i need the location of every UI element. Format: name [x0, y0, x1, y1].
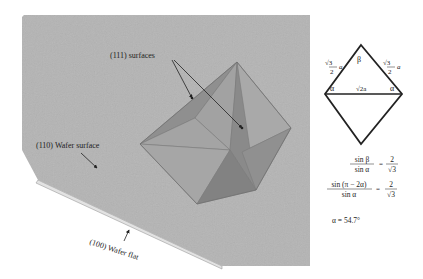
eq1-rhs-num: 2: [390, 155, 394, 164]
svg-text:a: a: [339, 63, 343, 71]
arrow-100: [124, 230, 129, 241]
result-alpha: α = 54.7°: [332, 216, 360, 225]
eq1-rhs-den: √3: [388, 165, 396, 174]
svg-text:√3: √3: [383, 59, 391, 67]
svg-text:a: a: [397, 63, 401, 71]
angle-alpha-left: α: [330, 84, 335, 93]
dot-111-right: [241, 127, 244, 130]
svg-text:√3: √3: [325, 59, 333, 67]
svg-text:2: 2: [330, 68, 334, 76]
svg-text:2: 2: [388, 68, 392, 76]
label-100-wafer-flat: (100) Wafer flat: [88, 237, 140, 262]
label-110-wafer-surface: (110) Wafer surface: [36, 141, 100, 150]
base-label: √2a: [356, 85, 367, 93]
dot-111-left: [191, 97, 194, 100]
etch-pit-figure: (111) surfaces (110) Wafer surface (100)…: [0, 0, 423, 279]
eq2-equals: =: [376, 185, 380, 193]
eq2-rhs-num: 2: [389, 180, 393, 189]
rhombus-diagram: √3 2 a √3 2 a β α α √2a: [325, 45, 402, 144]
eq2-numerator: sin (π − 2α): [331, 180, 367, 189]
eq2-denominator: sin α: [342, 190, 357, 199]
angle-beta: β: [357, 55, 361, 64]
eq2-rhs-den: √3: [387, 190, 395, 199]
label-111-surfaces: (111) surfaces: [110, 51, 155, 60]
eq1-denominator: sin α: [355, 165, 370, 174]
equations: sin β sin α = 2 √3 sin (π − 2α) sin α = …: [327, 155, 398, 225]
eq1-equals: =: [379, 160, 383, 168]
eq1-numerator: sin β: [355, 155, 370, 164]
